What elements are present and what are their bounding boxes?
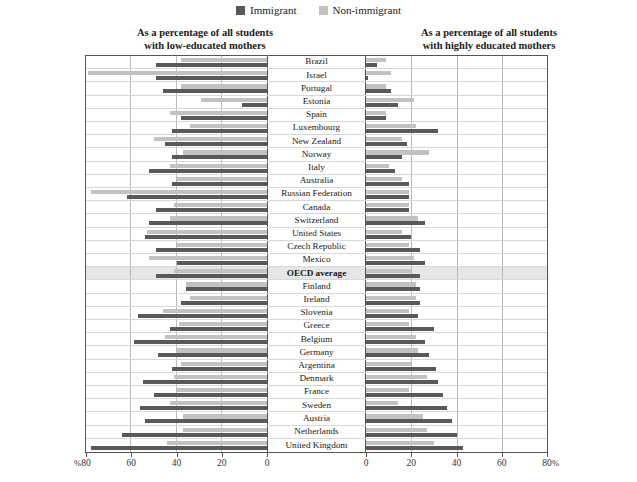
gridline-40: [457, 426, 458, 438]
bar-high-immigrant: [366, 287, 420, 291]
axis-tick-label: 40: [452, 458, 462, 468]
plot-area: BrazilIsraelPortugalEstoniaSpainLuxembou…: [85, 55, 548, 453]
axis-unit-label: %: [552, 458, 559, 468]
bar-cell-low-educated: [86, 426, 267, 438]
bar-high-immigrant: [366, 406, 447, 410]
bar-high-non-immigrant: [366, 322, 409, 326]
gridline-60: [130, 320, 131, 332]
gridline-40: [457, 109, 458, 121]
axis-tick: [411, 453, 412, 457]
gridline-40: [457, 320, 458, 332]
bar-cell-highly-educated: [366, 386, 547, 398]
bar-low-immigrant: [145, 419, 267, 423]
chart-row: Estonia: [86, 96, 547, 109]
bar-low-immigrant: [122, 433, 267, 437]
country-label: Argentina: [267, 360, 366, 372]
country-label: United Kingdom: [267, 439, 366, 452]
axis-tick: [177, 453, 178, 457]
gridline-60: [502, 267, 503, 279]
axis-tick: [547, 453, 548, 457]
bar-low-non-immigrant: [165, 335, 267, 339]
panel-heading-left: As a percentage of all students with low…: [64, 27, 346, 52]
bar-low-immigrant: [181, 301, 267, 305]
bar-high-immigrant: [366, 433, 457, 437]
bar-cell-highly-educated: [366, 175, 547, 187]
country-label: United States: [267, 228, 366, 240]
chart-row: Brazil: [86, 56, 547, 69]
axis-tick-label: 80: [81, 458, 91, 468]
gridlines-right: [366, 109, 547, 121]
axis-tick: [131, 453, 132, 457]
gridline-40: [457, 96, 458, 108]
gridline-60: [502, 96, 503, 108]
bar-cell-low-educated: [86, 228, 267, 240]
gridline-60: [502, 175, 503, 187]
gridline-60: [130, 56, 131, 68]
legend-swatch-non-immigrant: [319, 6, 328, 15]
gridline-40: [457, 241, 458, 253]
bar-low-non-immigrant: [201, 98, 267, 102]
gridline-60: [502, 188, 503, 200]
chart-row: Luxembourg: [86, 122, 547, 135]
bar-cell-low-educated: [86, 214, 267, 226]
bar-high-immigrant: [366, 248, 420, 252]
gridline-60: [130, 82, 131, 94]
gridline-60: [502, 399, 503, 411]
bar-low-immigrant: [172, 155, 267, 159]
bar-low-immigrant: [156, 208, 267, 212]
bar-cell-low-educated: [86, 399, 267, 411]
bar-low-non-immigrant: [177, 243, 268, 247]
gridline-60: [130, 373, 131, 385]
panel-heading-right-line2: with highly educated mothers: [348, 40, 630, 53]
gridline-40: [457, 333, 458, 345]
gridline-40: [457, 188, 458, 200]
bar-low-non-immigrant: [181, 58, 267, 62]
bar-high-immigrant: [366, 63, 377, 67]
country-label: Mexico: [267, 254, 366, 266]
bar-high-non-immigrant: [366, 216, 418, 220]
axis-tick: [457, 453, 458, 457]
gridline-40: [176, 96, 177, 108]
gridline-20: [411, 135, 412, 147]
bar-cell-low-educated: [86, 175, 267, 187]
country-label: Australia: [267, 175, 366, 187]
gridline-60: [130, 267, 131, 279]
bar-high-non-immigrant: [366, 71, 391, 75]
bar-cell-low-educated: [86, 386, 267, 398]
chart-row: Norway: [86, 148, 547, 161]
bar-cell-highly-educated: [366, 307, 547, 319]
gridline-60: [130, 135, 131, 147]
bar-high-immigrant: [366, 155, 402, 159]
bar-low-non-immigrant: [190, 124, 267, 128]
gridline-60: [502, 386, 503, 398]
bar-cell-low-educated: [86, 360, 267, 372]
bar-low-immigrant: [156, 274, 267, 278]
bar-low-immigrant: [156, 63, 267, 67]
gridline-60: [502, 307, 503, 319]
chart-row: Germany: [86, 346, 547, 359]
bar-high-non-immigrant: [366, 256, 414, 260]
bar-low-non-immigrant: [170, 111, 267, 115]
country-label: Finland: [267, 280, 366, 292]
gridline-40: [457, 82, 458, 94]
bar-low-non-immigrant: [177, 177, 268, 181]
gridline-20: [411, 228, 412, 240]
bar-low-immigrant: [154, 393, 267, 397]
country-label: Israel: [267, 69, 366, 81]
bar-cell-highly-educated: [366, 214, 547, 226]
country-label: Brazil: [267, 56, 366, 68]
bar-high-non-immigrant: [366, 230, 402, 234]
gridline-60: [502, 148, 503, 160]
bar-cell-highly-educated: [366, 294, 547, 306]
gridline-60: [130, 360, 131, 372]
bar-high-immigrant: [366, 353, 429, 357]
bar-low-immigrant: [186, 287, 267, 291]
bar-high-immigrant: [366, 367, 436, 371]
bar-high-immigrant: [366, 274, 420, 278]
gridline-40: [457, 294, 458, 306]
gridline-60: [130, 346, 131, 358]
gridline-60: [130, 254, 131, 266]
gridline-40: [457, 307, 458, 319]
country-label: Luxembourg: [267, 122, 366, 134]
gridline-60: [502, 69, 503, 81]
